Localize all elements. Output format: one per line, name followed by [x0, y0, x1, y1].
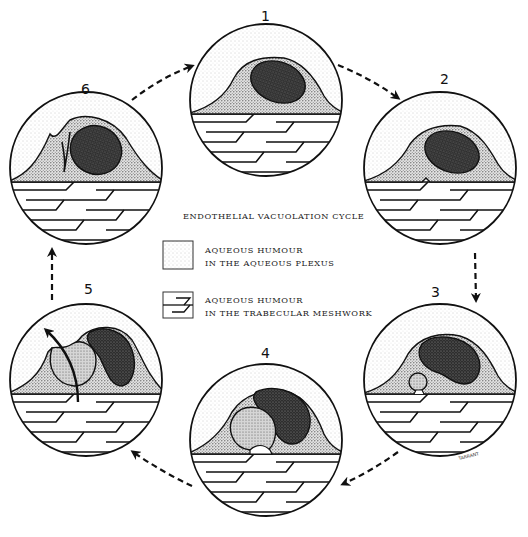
- endothelial-vacuolation-diagram: 1 2 3 4 5 6 ENDOTHELIAL VACUOLATION CYCL…: [0, 0, 528, 537]
- giant-vacuole: [231, 407, 276, 450]
- stage-label-2: 2: [440, 71, 449, 87]
- diagram-title: ENDOTHELIAL VACUOLATION CYCLE: [183, 211, 364, 221]
- stage-label-5: 5: [84, 281, 93, 297]
- stage-5: [6, 304, 174, 472]
- legend-line2: IN THE AQUEOUS PLEXUS: [205, 258, 334, 268]
- stage-1: [186, 24, 354, 192]
- small-vacuole: [409, 373, 427, 391]
- legend-line2: IN THE TRABECULAR MESHWORK: [205, 308, 372, 318]
- stage-2: [360, 92, 528, 260]
- arrow-4-to-5: [133, 452, 192, 486]
- arrow-2-to-3: [475, 253, 476, 300]
- legend-swatch-stippled: [163, 241, 193, 269]
- stage-label-4: 4: [261, 345, 270, 361]
- stage-label-3: 3: [431, 284, 440, 300]
- stage-3: [360, 304, 528, 472]
- arrow-6-to-1: [132, 66, 192, 100]
- stage-label-1: 1: [261, 8, 270, 24]
- legend-item-trabecular-meshwork: AQUEOUS HUMOUR IN THE TRABECULAR MESHWOR…: [163, 292, 372, 318]
- stage-label-6: 6: [81, 81, 90, 97]
- arrow-1-to-2: [338, 65, 398, 98]
- legend-line1: AQUEOUS HUMOUR: [204, 245, 303, 255]
- arrow-3-to-4: [343, 452, 398, 484]
- legend: AQUEOUS HUMOUR IN THE AQUEOUS PLEXUS AQU…: [163, 241, 372, 318]
- legend-item-aqueous-plexus: AQUEOUS HUMOUR IN THE AQUEOUS PLEXUS: [163, 241, 334, 269]
- stage-4: [186, 364, 354, 532]
- stage-6: [6, 92, 174, 260]
- legend-line1: AQUEOUS HUMOUR: [204, 295, 303, 305]
